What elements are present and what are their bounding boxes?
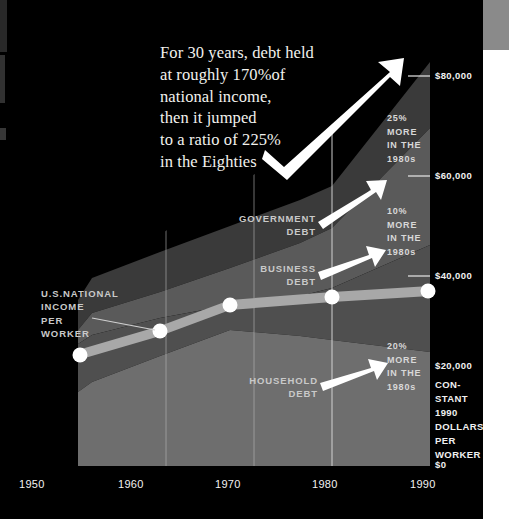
growth-note-government-l3: IN THE (387, 139, 421, 153)
headline-line-6: in the Eighties (160, 151, 360, 173)
y-axis-units-caption: CON- STANT 1990 DOLLARS PER WORKER (435, 378, 484, 462)
x-axis-label-1960: 1960 (118, 478, 144, 490)
growth-note-business-pct: 10% (387, 205, 421, 219)
label-national-income-line1: U.S.NATIONAL (41, 287, 151, 300)
growth-note-household: 20% MORE IN THE 1980s (387, 340, 421, 394)
growth-note-government-l4: 1980s (387, 153, 421, 167)
growth-note-business-l4: 1980s (387, 246, 421, 260)
headline-line-4: then it jumped (160, 107, 360, 129)
label-business-debt-line1: BUSINESS (198, 262, 316, 275)
x-axis-label-1980: 1980 (312, 478, 338, 490)
growth-note-business-l2: MORE (387, 219, 421, 233)
y-axis-label-60000: $60,000 (435, 170, 472, 181)
label-government-debt-line2: DEBT (188, 225, 316, 238)
headline-line-5: to a ratio of 225% (160, 129, 360, 151)
x-axis-label-1970: 1970 (215, 478, 241, 490)
label-national-income-line2: INCOME (41, 300, 151, 313)
headline-line-2: at roughly 170%of (160, 64, 360, 86)
label-business-debt-line2: DEBT (198, 275, 316, 288)
chart-figure: For 30 years, debt held at roughly 170%o… (0, 0, 509, 519)
growth-note-government-pct: 25% (387, 112, 421, 126)
page-corner-block (483, 0, 509, 50)
units-line-4: DOLLARS (435, 420, 484, 434)
growth-note-business: 10% MORE IN THE 1980s (387, 205, 421, 259)
label-national-income-line4: WORKER (41, 327, 151, 340)
label-national-income-line3: PER (41, 314, 151, 327)
headline: For 30 years, debt held at roughly 170%o… (160, 42, 360, 173)
y-axis-label-20000: $20,000 (435, 360, 472, 371)
x-axis-label-1950: 1950 (19, 478, 45, 490)
growth-note-household-l4: 1980s (387, 381, 421, 395)
growth-note-household-l3: IN THE (387, 367, 421, 381)
label-household-debt-line2: DEBT (200, 387, 318, 400)
growth-note-government: 25% MORE IN THE 1980s (387, 112, 421, 166)
headline-line-3: national income, (160, 86, 360, 108)
units-line-3: 1990 (435, 406, 484, 420)
y-axis-label-80000: $80,000 (435, 70, 472, 81)
units-line-1: CON- (435, 378, 484, 392)
units-line-6: WORKER (435, 448, 484, 462)
units-line-2: STANT (435, 392, 484, 406)
label-national-income: U.S.NATIONAL INCOME PER WORKER (41, 287, 151, 341)
units-line-5: PER (435, 434, 484, 448)
x-axis-label-1990: 1990 (410, 478, 436, 490)
headline-line-1: For 30 years, debt held (160, 42, 360, 64)
label-government-debt: GOVERNMENT DEBT (188, 212, 316, 239)
label-business-debt: BUSINESS DEBT (198, 262, 316, 289)
label-government-debt-line1: GOVERNMENT (188, 212, 316, 225)
page-right-margin (483, 0, 509, 519)
growth-note-household-l2: MORE (387, 354, 421, 368)
growth-note-household-pct: 20% (387, 340, 421, 354)
growth-note-government-l2: MORE (387, 126, 421, 140)
label-household-debt: HOUSEHOLD DEBT (200, 374, 318, 401)
label-household-debt-line1: HOUSEHOLD (200, 374, 318, 387)
growth-note-business-l3: IN THE (387, 232, 421, 246)
y-axis-label-40000: $40,000 (435, 270, 472, 281)
